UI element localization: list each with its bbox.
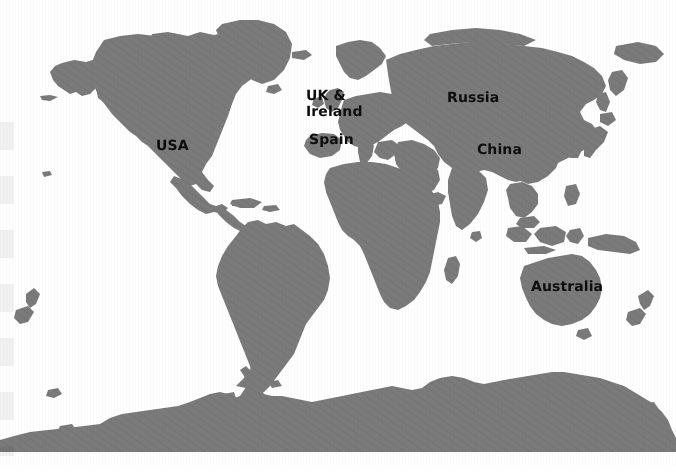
- map-label-australia: Australia: [531, 280, 603, 295]
- world-map-graphic: [0, 0, 676, 472]
- map-label-russia: Russia: [447, 91, 499, 106]
- map-label-usa: USA: [156, 139, 189, 154]
- world-map: USA UK & Ireland Spain Russia China Aust…: [0, 0, 676, 472]
- map-label-china: China: [477, 143, 522, 158]
- bottom-edge-strip: [0, 466, 676, 472]
- map-label-spain: Spain: [309, 133, 354, 148]
- map-label-uk-ireland: UK & Ireland: [306, 88, 363, 120]
